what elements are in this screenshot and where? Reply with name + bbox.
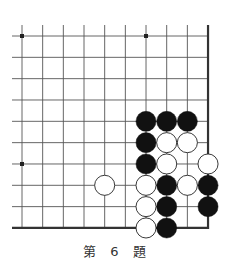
white-stone [95,175,115,195]
white-stone [136,175,156,195]
star-point [144,34,148,38]
white-stone [198,154,218,174]
black-stone [136,154,156,174]
black-stone [198,197,218,217]
black-stone [136,133,156,153]
star-point [20,34,24,38]
white-stone [157,154,177,174]
star-point [20,162,24,166]
black-stone [198,175,218,195]
problem-caption: 第 6 題 [0,241,234,260]
black-stone [177,111,197,131]
black-stone [157,197,177,217]
white-stone [177,133,197,153]
stones [95,111,218,238]
black-stone [157,111,177,131]
black-stone [157,218,177,238]
white-stone [157,133,177,153]
black-stone [136,111,156,131]
go-board-diagram [0,0,234,240]
white-stone [136,218,156,238]
white-stone [177,175,197,195]
black-stone [157,175,177,195]
white-stone [136,197,156,217]
